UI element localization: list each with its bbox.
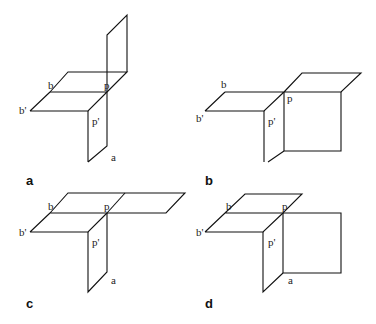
point-a: a [111,274,116,286]
horizontal-plane-front [205,213,283,232]
vertical-plane-down [88,92,107,162]
point-b: b [226,200,232,212]
horizontal-plane-front [30,213,107,232]
panel-label-d: d [205,296,213,311]
vertical-plane-down [88,213,107,292]
vertical-plane-up [107,15,127,92]
vertical-box-right [284,92,341,151]
point-b-prime: b' [196,226,204,238]
point-p: p [104,200,110,212]
vertical-box-right [283,213,341,273]
horizontal-plane-back [50,72,127,92]
panel-c: b b' p p' a [19,193,185,292]
horizontal-plane [225,194,302,213]
panel-label-b: b [205,173,213,188]
horizontal-plane-right [284,73,361,92]
point-p-prime: p' [92,236,100,248]
panel-d: b b' p p' a [196,194,341,292]
horizontal-plane [50,193,185,213]
point-a: a [288,274,293,286]
point-p-prime: p' [92,115,100,127]
horizontal-plane-left [205,92,284,111]
point-b: b [48,200,54,212]
point-p: p [282,200,288,212]
point-b-prime: b' [19,226,27,238]
panel-label-c: c [26,296,33,311]
point-p-prime: p' [268,236,276,248]
point-b: b [221,78,227,90]
point-p: p [104,79,110,91]
panel-label-a: a [26,173,34,188]
point-b-prime: b' [196,112,204,124]
point-p-prime: p' [268,115,276,127]
point-p: p [287,92,293,104]
panel-b: b b' p p' [196,73,361,162]
figure-canvas: b b' p p' a a b b' p p' b b b' p p' a c … [0,0,376,324]
horizontal-plane-front [30,92,107,111]
plane-divider [107,193,125,213]
point-b: b [48,79,54,91]
point-a: a [111,151,116,163]
panel-a: b b' p p' a [19,15,127,163]
point-b-prime: b' [19,104,27,116]
